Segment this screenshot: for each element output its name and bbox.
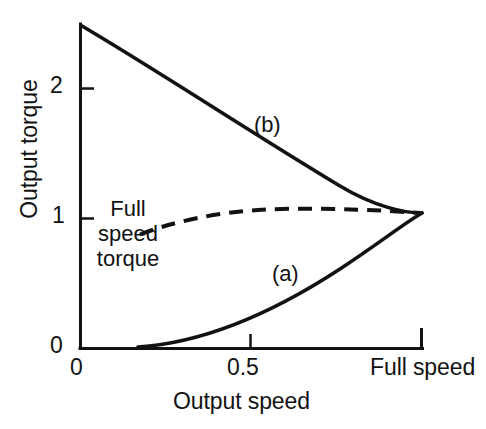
curve-a-label: (a) — [272, 263, 299, 285]
full-speed-torque-line-3: torque — [92, 246, 164, 271]
y-tick-label-0: 0 — [50, 334, 63, 357]
x-tick-label-0point5: 0.5 — [227, 356, 259, 379]
curve-full-speed-torque — [140, 209, 421, 235]
y-axis-title-wrapper: Output torque — [18, 54, 48, 244]
y-tick-label-1: 1 — [52, 204, 65, 227]
chart-figure: 2 1 0 0 0.5 Full speed Output speed Outp… — [0, 0, 486, 429]
y-tick-label-2: 2 — [50, 74, 63, 97]
x-tick-label-full-speed: Full speed — [370, 356, 475, 379]
full-speed-torque-annotation: Full speed torque — [92, 196, 164, 271]
full-speed-torque-line-2: speed — [92, 221, 164, 246]
x-tick-label-0: 0 — [70, 356, 83, 379]
x-axis-title: Output speed — [173, 390, 310, 413]
y-axis-title: Output torque — [18, 79, 41, 218]
curve-b — [82, 26, 422, 213]
curve-b-label: (b) — [254, 114, 281, 136]
full-speed-torque-line-1: Full — [92, 196, 164, 221]
